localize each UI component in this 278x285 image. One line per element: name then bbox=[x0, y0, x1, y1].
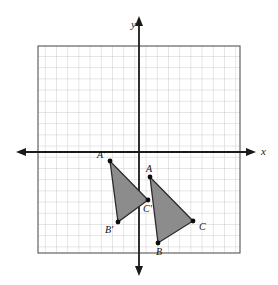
x-axis-label: x bbox=[260, 145, 266, 157]
vertex-point-c bbox=[191, 219, 196, 224]
figure-canvas: x y A' B' C' A B C bbox=[0, 0, 278, 285]
y-axis-label: y bbox=[130, 18, 136, 30]
vertex-label-a-prime: A' bbox=[96, 149, 106, 160]
vertex-point-b-prime bbox=[116, 220, 121, 225]
vertex-point-c-prime bbox=[146, 198, 151, 203]
vertex-point-a-prime bbox=[108, 159, 113, 164]
coordinate-plane-figure: x y A' B' C' A B C bbox=[0, 0, 278, 285]
y-axis-up-arrow-icon bbox=[135, 16, 143, 26]
vertex-point-a bbox=[148, 175, 153, 180]
vertex-label-b: B bbox=[156, 246, 162, 257]
vertex-point-b bbox=[156, 241, 161, 246]
x-axis-left-arrow-icon bbox=[16, 148, 26, 156]
vertex-label-b-prime: B' bbox=[105, 224, 114, 235]
vertex-label-a: A bbox=[145, 163, 153, 174]
vertex-label-c-prime: C' bbox=[143, 203, 153, 214]
vertex-label-c: C bbox=[199, 221, 206, 232]
y-axis-down-arrow-icon bbox=[135, 266, 143, 276]
x-axis-right-arrow-icon bbox=[246, 148, 256, 156]
